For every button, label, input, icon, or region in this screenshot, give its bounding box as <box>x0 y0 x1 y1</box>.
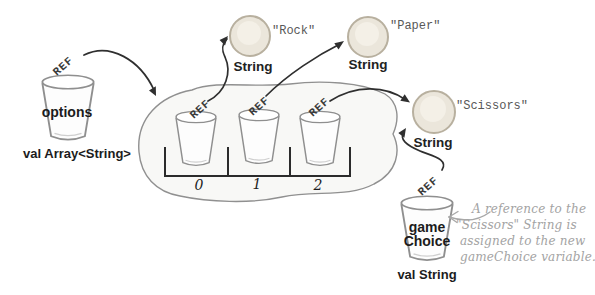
index-label-2: 2 <box>308 177 328 193</box>
gamechoice-var-name: game Choice <box>397 220 457 248</box>
scissors-string-type: String <box>403 135 463 150</box>
annotation-line-3: assigned to the new <box>460 234 586 248</box>
arrow-options-to-array <box>84 51 156 96</box>
annotation-line-1: A reference to the <box>472 202 586 216</box>
annotation-line-2: "Scissors" String is <box>456 218 577 232</box>
gamechoice-name-line1: game <box>397 220 457 234</box>
gamechoice-name-line2: Choice <box>397 234 457 248</box>
annotation-line-4: gameChoice variable. <box>460 250 595 264</box>
rock-string-type: String <box>223 59 283 74</box>
scissors-string-value: "Scissors" <box>456 99 528 113</box>
index-label-1: 1 <box>247 176 267 192</box>
options-var-type: val Array<String> <box>10 146 144 161</box>
rock-string-ball <box>230 16 270 56</box>
paper-string-type: String <box>338 57 398 72</box>
scissors-string-ball <box>413 91 455 133</box>
rock-string-value: "Rock" <box>272 24 315 38</box>
gamechoice-var-type: val String <box>394 267 460 282</box>
diagram-stage: REF REF REF REF REF options val Array<St… <box>0 0 595 295</box>
options-var-name: options <box>39 104 95 120</box>
paper-string-value: "Paper" <box>390 19 440 33</box>
paper-string-ball <box>348 17 388 57</box>
index-label-0: 0 <box>189 177 209 193</box>
